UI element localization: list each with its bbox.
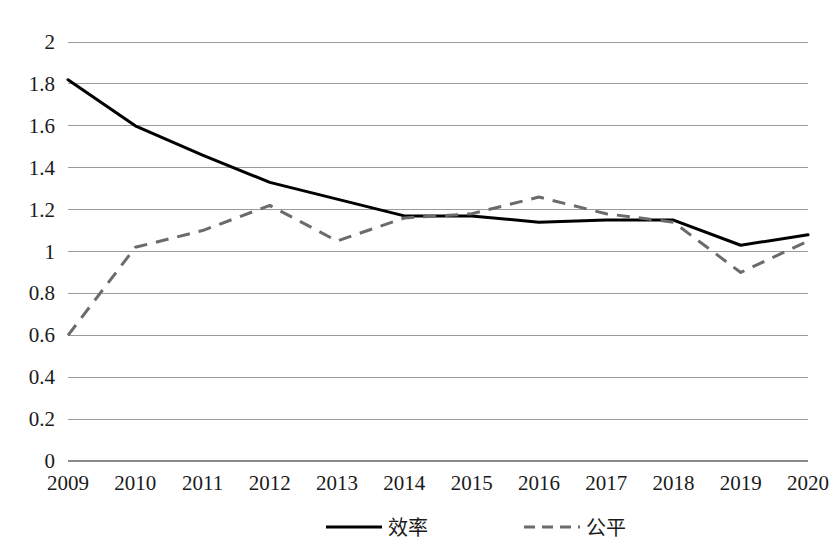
- y-axis-tick-label: 1.4: [29, 156, 56, 180]
- y-axis-tick-label: 0.6: [29, 323, 55, 347]
- y-axis-tick-label: 1: [45, 240, 56, 264]
- x-axis-tick-label: 2018: [652, 471, 694, 495]
- y-axis-tick-label: 0: [45, 449, 56, 473]
- x-axis-tick-label: 2009: [47, 471, 89, 495]
- x-axis-tick-label: 2017: [585, 471, 627, 495]
- x-axis-tick-label: 2020: [787, 471, 829, 495]
- y-axis-tick-label: 0.8: [29, 281, 55, 305]
- y-axis-tick-label: 0.4: [29, 365, 56, 389]
- y-axis-tick-label: 1.8: [29, 72, 55, 96]
- x-axis-tick-label: 2014: [383, 471, 426, 495]
- y-axis-tick-label: 2: [45, 30, 56, 54]
- x-axis-tick-label: 2010: [114, 471, 156, 495]
- legend-label-efficiency: 效率: [388, 517, 428, 539]
- x-axis-tick-label: 2015: [451, 471, 493, 495]
- x-axis-tick-label: 2013: [316, 471, 358, 495]
- line-chart: 21.81.61.41.210.80.60.40.20 200920102011…: [0, 0, 837, 560]
- x-axis-tick-label: 2012: [249, 471, 291, 495]
- x-axis-tick-label: 2016: [518, 471, 560, 495]
- y-axis-tick-label: 1.2: [29, 198, 55, 222]
- x-axis-tick-label: 2011: [182, 471, 223, 495]
- y-axis-tick-label: 1.6: [29, 114, 55, 138]
- chart-canvas: 21.81.61.41.210.80.60.40.20 200920102011…: [0, 0, 837, 560]
- x-axis-tick-label: 2019: [720, 471, 762, 495]
- y-axis-tick-label: 0.2: [29, 407, 55, 431]
- legend-label-equity: 公平: [586, 517, 626, 539]
